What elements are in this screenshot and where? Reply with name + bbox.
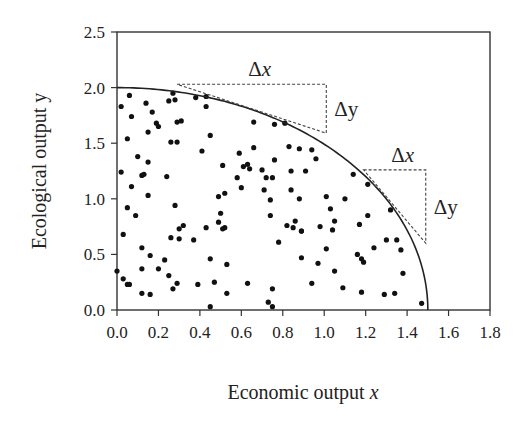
- data-point: [199, 148, 204, 153]
- data-point: [125, 136, 130, 141]
- data-point: [270, 304, 275, 309]
- data-point: [286, 144, 291, 149]
- data-point: [162, 257, 167, 262]
- x-axis-title: Economic output x: [227, 381, 378, 404]
- data-point: [340, 285, 345, 290]
- y-tick-label: 1.0: [84, 190, 105, 209]
- data-point: [179, 118, 184, 123]
- x-tick-label: 1.2: [355, 323, 376, 342]
- data-point: [297, 146, 302, 151]
- data-point: [177, 236, 182, 241]
- data-point: [145, 160, 150, 165]
- data-point: [419, 301, 424, 306]
- data-point: [398, 247, 403, 252]
- x-tick-label: 0.2: [148, 323, 169, 342]
- data-point: [168, 139, 173, 144]
- data-point: [394, 237, 399, 242]
- data-point: [135, 154, 140, 159]
- delta-y-label: Δy: [334, 97, 359, 121]
- x-tick-label: 1.0: [314, 323, 335, 342]
- data-point: [125, 205, 130, 210]
- x-tick-label: 0.0: [106, 323, 127, 342]
- data-point: [129, 114, 134, 119]
- data-point: [297, 196, 302, 201]
- data-point: [266, 300, 271, 305]
- data-point: [164, 174, 169, 179]
- data-point: [291, 225, 296, 230]
- data-point: [245, 162, 250, 167]
- data-point: [359, 290, 364, 295]
- data-point: [166, 98, 171, 103]
- data-point: [141, 172, 146, 177]
- y-tick-label: 0.5: [84, 245, 105, 264]
- data-point: [284, 223, 289, 228]
- data-point: [262, 187, 267, 192]
- data-point: [139, 291, 144, 296]
- data-point: [212, 280, 217, 285]
- y-axis-ticks: 0.00.51.01.52.02.5: [84, 23, 117, 320]
- data-point: [145, 129, 150, 134]
- data-point: [293, 218, 298, 223]
- data-point: [172, 203, 177, 208]
- data-point: [220, 163, 225, 168]
- data-point: [216, 194, 221, 199]
- data-point: [247, 166, 252, 171]
- x-tick-label: 1.4: [396, 323, 418, 342]
- data-point: [121, 232, 126, 237]
- data-point: [208, 304, 213, 309]
- data-point: [218, 211, 223, 216]
- data-point: [371, 245, 376, 250]
- data-point: [309, 281, 314, 286]
- data-point: [317, 224, 322, 229]
- data-point: [259, 167, 264, 172]
- data-point: [224, 262, 229, 267]
- data-point: [168, 235, 173, 240]
- data-point: [384, 237, 389, 242]
- data-point: [276, 240, 281, 245]
- data-point: [237, 151, 242, 156]
- data-point: [264, 175, 269, 180]
- data-point: [156, 124, 161, 129]
- data-point: [208, 133, 213, 138]
- data-point: [156, 266, 161, 271]
- data-point: [177, 226, 182, 231]
- data-point: [121, 276, 126, 281]
- data-point: [195, 282, 200, 287]
- y-tick-label: 1.5: [84, 134, 105, 153]
- data-point: [150, 109, 155, 114]
- data-point: [355, 252, 360, 257]
- data-point: [204, 225, 209, 230]
- data-point: [365, 182, 370, 187]
- data-point: [324, 246, 329, 251]
- data-point: [129, 184, 134, 189]
- data-points: [114, 91, 424, 310]
- data-point: [235, 175, 240, 180]
- delta-x-label: Δx: [391, 143, 415, 167]
- data-point: [222, 191, 227, 196]
- data-point: [208, 256, 213, 261]
- data-point: [268, 213, 273, 218]
- data-point: [361, 260, 366, 265]
- data-point: [400, 271, 405, 276]
- data-point: [309, 147, 314, 152]
- data-point: [365, 213, 370, 218]
- delta-y-label: Δy: [434, 195, 459, 219]
- slope-triangle: [177, 84, 326, 133]
- data-point: [133, 213, 138, 218]
- data-point: [357, 222, 362, 227]
- data-point: [245, 281, 250, 286]
- delta-x-label: Δx: [248, 57, 272, 81]
- y-axis-title: Ecological output y: [28, 93, 51, 250]
- data-point: [270, 286, 275, 291]
- data-point: [174, 139, 179, 144]
- data-point: [382, 292, 387, 297]
- data-point: [324, 194, 329, 199]
- data-point: [145, 193, 150, 198]
- data-point: [288, 187, 293, 192]
- data-point: [315, 261, 320, 266]
- data-point: [270, 175, 275, 180]
- data-point: [148, 292, 153, 297]
- x-tick-label: 0.8: [272, 323, 293, 342]
- data-point: [299, 228, 304, 233]
- data-point: [251, 119, 256, 124]
